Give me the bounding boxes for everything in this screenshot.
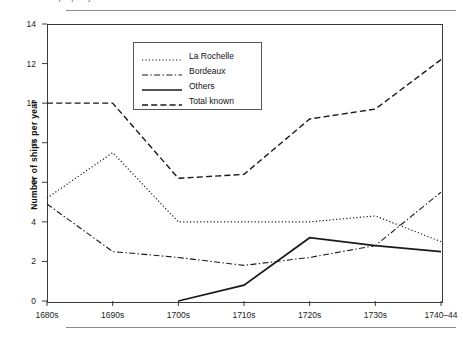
legend-label: Bordeaux [189, 67, 225, 76]
legend: La RochelleBordeauxOthersTotal known [133, 42, 262, 110]
y-tick-label: 12 [14, 60, 36, 69]
legend-swatch-icon [142, 81, 182, 91]
y-tick-label: 14 [14, 20, 36, 29]
legend-swatch-icon [142, 51, 182, 61]
x-tick-label: 1690s [83, 311, 143, 320]
x-tick-label: 1730s [345, 311, 405, 320]
y-tick-label: 4 [14, 218, 36, 227]
series-line-others [178, 238, 441, 301]
legend-item-others[interactable]: Others [142, 79, 215, 93]
y-tick-label: 10 [14, 99, 36, 108]
legend-item-bordeaux[interactable]: Bordeaux [142, 64, 225, 78]
x-tick-label: 1720s [280, 311, 340, 320]
x-tick-label: 1710s [214, 311, 274, 320]
legend-swatch-icon [142, 96, 182, 106]
legend-label: Others [189, 82, 215, 91]
y-tick-label: 2 [14, 257, 36, 266]
legend-label: Total known [189, 97, 234, 106]
y-tick-label: 8 [14, 139, 36, 148]
series-line-la-rochelle [47, 153, 441, 242]
series-line-bordeaux [47, 192, 441, 265]
y-tick-label: 6 [14, 178, 36, 187]
x-tick-label: 1740–44 [411, 311, 463, 320]
legend-item-total-known[interactable]: Total known [142, 94, 234, 108]
legend-item-la-rochelle[interactable]: La Rochelle [142, 49, 234, 63]
legend-label: La Rochelle [189, 52, 234, 61]
x-tick-label: 1700s [148, 311, 208, 320]
figure: Number of ships per year Number of ships… [0, 0, 463, 338]
y-tick-label: 0 [14, 297, 36, 306]
legend-swatch-icon [142, 66, 182, 76]
x-tick-label: 1680s [17, 311, 77, 320]
